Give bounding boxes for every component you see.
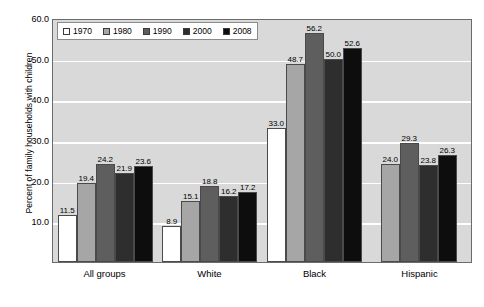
bar-value-label: 21.9 [116, 165, 132, 173]
legend-item[interactable]: 1980 [103, 27, 132, 36]
bar-value-label: 8.9 [166, 218, 177, 226]
bar[interactable]: 21.9 [115, 173, 134, 262]
bar-wrap: 50.0 [324, 20, 343, 262]
bar-value-label: 24.0 [382, 156, 398, 164]
bar[interactable]: 52.6 [343, 48, 362, 262]
legend-swatch-icon [183, 28, 190, 35]
bar-wrap: 26.3 [438, 20, 457, 262]
legend-item[interactable]: 1990 [143, 27, 172, 36]
bar-wrap: 33.0 [267, 20, 286, 262]
bar-wrap: 16.2 [219, 20, 238, 262]
bar-value-label: 24.2 [97, 156, 113, 164]
bar-value-label: 56.2 [306, 25, 322, 33]
bar[interactable]: 24.0 [381, 164, 400, 262]
legend-swatch-icon [103, 28, 110, 35]
bar[interactable]: 26.3 [438, 155, 457, 262]
legend-swatch-icon [223, 28, 230, 35]
y-axis-tick-label: 40.0 [31, 96, 49, 105]
bar-chart: Percent of family households with childr… [0, 0, 484, 307]
bar-wrap: 52.6 [343, 20, 362, 262]
bar[interactable]: 15.1 [181, 201, 200, 262]
bar-value-label: 15.1 [183, 193, 199, 201]
bar-wrap: 29.3 [400, 20, 419, 262]
bar-value-label: 17.2 [240, 184, 256, 192]
bar-wrap: 18.8 [200, 20, 219, 262]
bar-wrap: 15.1 [181, 20, 200, 262]
y-axis-tick-label: 60.0 [31, 15, 49, 24]
bar[interactable]: 17.2 [238, 192, 257, 262]
bar[interactable]: 56.2 [305, 33, 324, 262]
y-axis-tick-label: 30.0 [31, 137, 49, 146]
bar-wrap: 48.7 [286, 20, 305, 262]
bar-wrap: 56.2 [305, 20, 324, 262]
bar-value-label: 48.7 [287, 56, 303, 64]
bar-wrap: 17.2 [238, 20, 257, 262]
legend-label: 1970 [73, 27, 92, 36]
x-axis-labels: All groupsWhiteBlackHispanic [52, 268, 472, 279]
legend-label: 2000 [193, 27, 212, 36]
bar[interactable]: 29.3 [400, 143, 419, 262]
bar-group: 11.519.424.221.923.6 [53, 20, 158, 262]
bar-value-label: 26.3 [439, 147, 455, 155]
legend-label: 2008 [233, 27, 252, 36]
bar-value-label: 11.5 [60, 207, 75, 215]
y-axis-tick-label: 10.0 [31, 218, 49, 227]
bar[interactable]: 19.4 [77, 183, 96, 262]
bar-value-label: 52.6 [344, 40, 360, 48]
bar[interactable]: 33.0 [267, 128, 286, 262]
bar-value-label: 33.0 [268, 120, 284, 128]
bar[interactable]: 8.9 [162, 226, 181, 262]
bar-group: 8.915.118.816.217.2 [158, 20, 263, 262]
bar-value-label: 23.8 [420, 157, 436, 165]
bar[interactable]: 16.2 [219, 196, 238, 262]
legend-item[interactable]: 2008 [223, 27, 252, 36]
bar-wrap: 23.8 [419, 20, 438, 262]
y-axis-tick-label: 20.0 [31, 177, 49, 186]
legend-item[interactable]: 2000 [183, 27, 212, 36]
bar-wrap: 11.5 [58, 20, 77, 262]
x-axis-label-1: All groups [52, 268, 157, 279]
bar-group: 33.048.756.250.052.6 [262, 20, 367, 262]
bar[interactable]: 48.7 [286, 64, 305, 262]
bar[interactable]: 18.8 [200, 186, 219, 262]
bar[interactable]: 23.8 [419, 165, 438, 262]
bar-value-label: 19.4 [78, 175, 94, 183]
plot-area: 11.519.424.221.923.68.915.118.816.217.23… [52, 19, 472, 263]
bar-value-label: 18.8 [202, 178, 218, 186]
x-axis-label-2: White [157, 268, 262, 279]
bar-wrap: 24.0 [381, 20, 400, 262]
y-axis-ticks: 60.050.040.030.020.010.0 [8, 0, 52, 307]
bar-value-label: 16.2 [221, 188, 237, 196]
legend-label: 1980 [113, 27, 132, 36]
bar-value-label: 50.0 [325, 51, 341, 59]
bar-wrap: 19.4 [77, 20, 96, 262]
chart-legend: 19701980199020002008 [57, 22, 258, 40]
bar-wrap: 21.9 [115, 20, 134, 262]
bar-wrap: 23.6 [134, 20, 153, 262]
bar-value-label: 29.3 [401, 135, 417, 143]
legend-swatch-icon [63, 28, 70, 35]
legend-label: 1990 [153, 27, 172, 36]
y-axis-tick-label: 50.0 [31, 55, 49, 64]
bar-wrap: 24.2 [96, 20, 115, 262]
bar-wrap: 8.9 [162, 20, 181, 262]
bar[interactable]: 24.2 [96, 164, 115, 262]
bar[interactable]: 23.6 [134, 166, 153, 262]
x-axis-label-3: Black [262, 268, 367, 279]
bar[interactable]: 11.5 [58, 215, 77, 262]
x-axis-label-4: Hispanic [367, 268, 472, 279]
bar-value-label: 23.6 [135, 158, 151, 166]
legend-swatch-icon [143, 28, 150, 35]
legend-item[interactable]: 1970 [63, 27, 92, 36]
bar[interactable]: 50.0 [324, 59, 343, 262]
bar-group: 24.029.323.826.3 [367, 20, 472, 262]
bar-groups: 11.519.424.221.923.68.915.118.816.217.23… [53, 20, 471, 262]
